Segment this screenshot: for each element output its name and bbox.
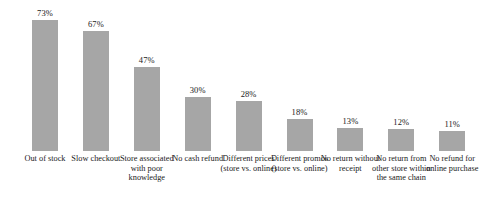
bar-value-label: 18% — [274, 107, 326, 117]
bar — [185, 97, 211, 151]
bar-value-label: 47% — [121, 55, 173, 65]
bar-group: 11%No refund for online purchase — [426, 0, 478, 211]
bar — [388, 129, 414, 151]
bar — [32, 20, 58, 151]
bar-group: 12%No return from other store within the… — [375, 0, 427, 211]
bar-value-label: 67% — [70, 19, 122, 29]
bar-chart: 73%Out of stock67%Slow checkout47%Store … — [0, 0, 496, 211]
bar-group: 73%Out of stock — [19, 0, 71, 211]
bar — [287, 119, 313, 151]
bar-group: 30%No cash refund — [172, 0, 224, 211]
bar-column: 30% — [172, 0, 224, 151]
bar-group: 28%Different prices (store vs. online) — [223, 0, 275, 211]
bar-column: 67% — [70, 0, 122, 151]
bar-value-label: 30% — [172, 85, 224, 95]
bar — [83, 31, 109, 151]
bar-value-label: 11% — [426, 119, 478, 129]
bar-value-label: 28% — [223, 89, 275, 99]
bar-column: 13% — [324, 0, 376, 151]
plot-area: 73%Out of stock67%Slow checkout47%Store … — [0, 0, 496, 211]
bar — [134, 67, 160, 151]
bar-column: 11% — [426, 0, 478, 151]
bar — [236, 101, 262, 151]
bar-group: 18%Different promos (store vs. online) — [274, 0, 326, 211]
bar-value-label: 13% — [324, 116, 376, 126]
bar-column: 12% — [375, 0, 427, 151]
bar-value-label: 12% — [375, 117, 427, 127]
bar-group: 47%Store associated with poor knowledge — [121, 0, 173, 211]
bar-column: 18% — [274, 0, 326, 151]
category-label: No refund for online purchase — [421, 154, 483, 173]
bar — [439, 131, 465, 151]
bar-column: 73% — [19, 0, 71, 151]
bar-group: 13%No return without receipt — [324, 0, 376, 211]
bar-group: 67%Slow checkout — [70, 0, 122, 211]
bar — [337, 128, 363, 151]
bar-value-label: 73% — [19, 8, 71, 18]
bar-column: 47% — [121, 0, 173, 151]
bar-column: 28% — [223, 0, 275, 151]
